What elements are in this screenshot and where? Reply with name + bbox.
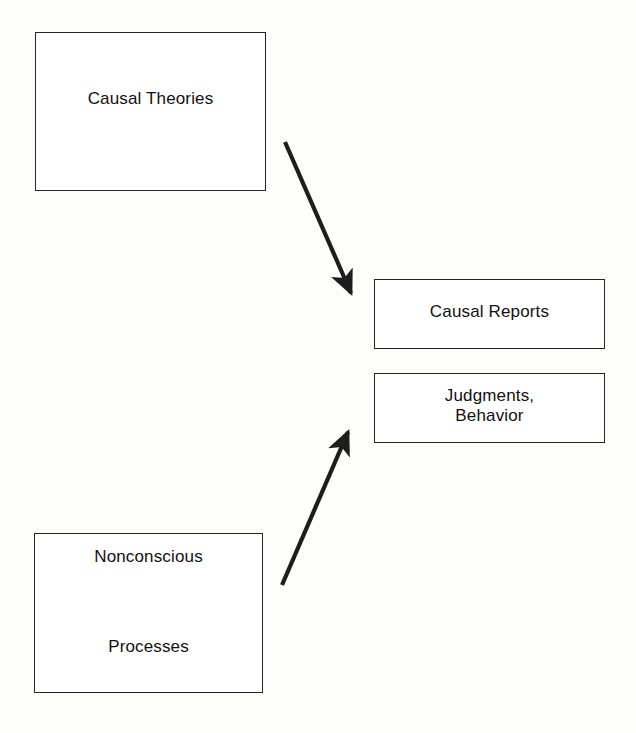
node-causal-reports: Causal Reports (374, 279, 605, 349)
arrow-causal-theories-to-causal-reports (285, 142, 351, 293)
node-judgments-behavior-label: Judgments, Behavior (445, 386, 534, 426)
node-nonconscious-processes: Nonconscious Processes (34, 533, 263, 693)
node-judgments-behavior: Judgments, Behavior (374, 373, 605, 443)
node-causal-theories: Causal Theories (35, 32, 266, 191)
arrow-nonconscious-processes-to-judgments-behavior (282, 432, 348, 585)
node-causal-theories-label: Causal Theories (88, 88, 214, 109)
node-nonconscious-processes-label: Nonconscious Processes (94, 534, 203, 669)
diagram-canvas: Causal Theories Causal Reports Judgments… (0, 0, 636, 733)
node-causal-reports-label: Causal Reports (430, 301, 549, 322)
